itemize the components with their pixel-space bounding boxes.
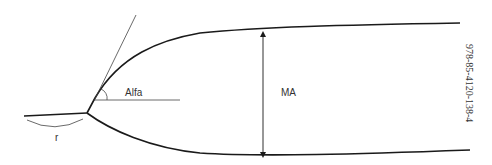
lower-profile-curve (87, 113, 470, 155)
radius-label: r (55, 132, 59, 143)
upper-profile-curve (87, 23, 460, 113)
left-stub-line (24, 113, 87, 116)
radius-arc (27, 119, 83, 127)
dimension-label: MA (281, 87, 296, 98)
isbn-text: 978-85-4120-138-4 (464, 44, 475, 122)
angle-label: Alfa (125, 87, 143, 98)
diagram-canvas: Alfa r MA 978-85-4120-138-4 (0, 0, 492, 165)
angle-arc (101, 89, 107, 100)
